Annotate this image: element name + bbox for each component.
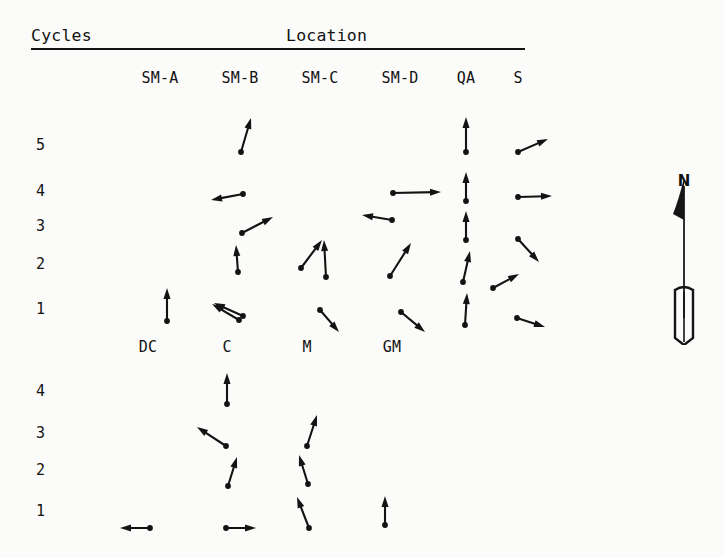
- vector-arrow-head: [463, 117, 470, 128]
- vector-arrow: [398, 309, 425, 332]
- vector-arrow: [297, 497, 312, 531]
- vector-arrow: [390, 189, 441, 196]
- vector-arrow-head: [120, 525, 131, 532]
- vector-arrow: [233, 245, 241, 275]
- vector-arrow-head: [299, 455, 306, 467]
- vector-tail-dot: [235, 269, 241, 275]
- vector-arrow: [463, 117, 470, 155]
- vector-arrow-head: [463, 211, 470, 222]
- vector-field: [0, 0, 724, 558]
- vector-arrow-head: [362, 213, 373, 220]
- north-arrow-icon: [660, 170, 708, 345]
- vector-arrow: [304, 415, 317, 449]
- vector-tail-dot: [514, 315, 520, 321]
- vector-arrow: [299, 455, 311, 487]
- vector-arrow-head: [321, 240, 328, 251]
- vector-tail-dot: [224, 401, 230, 407]
- vector-arrow: [197, 427, 229, 449]
- vector-arrow-head: [463, 172, 470, 183]
- vector-tail-dot: [223, 525, 229, 531]
- vector-arrow: [225, 457, 237, 489]
- vector-arrow: [211, 191, 246, 201]
- vector-arrow: [239, 217, 273, 236]
- vector-arrow-head: [164, 288, 171, 299]
- vector-arrow: [462, 293, 470, 328]
- vector-tail-dot: [240, 313, 246, 319]
- vector-arrow-head: [262, 217, 273, 225]
- vector-arrow: [298, 240, 322, 271]
- vector-tail-dot: [398, 309, 404, 315]
- vector-tail-dot: [225, 483, 231, 489]
- vector-tail-dot: [298, 265, 304, 271]
- figure-canvas: Cycles Location SM-A SM-B SM-C SM-D QA S…: [0, 0, 724, 558]
- vector-tail-dot: [317, 307, 323, 313]
- vector-tail-dot: [306, 525, 312, 531]
- vector-tail-dot: [515, 194, 521, 200]
- vector-tail-dot: [389, 217, 395, 223]
- vector-arrow-head: [224, 373, 231, 384]
- vector-arrow-head: [245, 118, 252, 130]
- vector-tail-dot: [239, 230, 245, 236]
- vector-tail-dot: [223, 443, 229, 449]
- vector-tail-dot: [515, 236, 521, 242]
- vector-tail-dot: [147, 525, 153, 531]
- vector-arrow: [238, 118, 251, 155]
- vector-arrow-head: [508, 274, 519, 282]
- vector-tail-dot: [490, 285, 496, 291]
- vector-tail-dot: [387, 273, 393, 279]
- vector-tail-dot: [515, 149, 521, 155]
- vector-tail-dot: [463, 149, 469, 155]
- vector-tail-dot: [323, 274, 329, 280]
- vector-arrow-head: [310, 415, 317, 427]
- vector-arrow: [515, 193, 552, 200]
- vector-arrow: [317, 307, 339, 332]
- vector-arrow: [321, 240, 329, 280]
- vector-arrow-head: [541, 193, 552, 200]
- vector-arrow: [224, 373, 231, 407]
- vector-arrow: [120, 525, 153, 532]
- vector-tail-dot: [240, 191, 246, 197]
- vector-arrow: [490, 274, 519, 291]
- vector-arrow: [515, 139, 548, 155]
- vector-arrow: [223, 525, 256, 532]
- vector-arrow-head: [245, 525, 256, 532]
- vector-arrow: [463, 211, 470, 243]
- vector-arrow-head: [537, 139, 548, 147]
- vector-tail-dot: [463, 237, 469, 243]
- vector-arrow-head: [233, 245, 240, 256]
- vector-arrow-head: [211, 195, 222, 202]
- vector-arrow: [515, 236, 539, 262]
- vector-tail-dot: [305, 481, 311, 487]
- vector-arrow-head: [464, 251, 471, 263]
- vector-arrow-head: [430, 189, 441, 196]
- vector-arrow: [362, 213, 395, 223]
- vector-arrow-head: [197, 427, 208, 436]
- vector-tail-dot: [390, 190, 396, 196]
- vector-tail-dot: [238, 149, 244, 155]
- vector-arrow: [463, 172, 470, 204]
- vector-arrow: [387, 243, 411, 279]
- vector-tail-dot: [460, 279, 466, 285]
- vector-tail-dot: [463, 198, 469, 204]
- vector-arrow: [514, 315, 545, 327]
- vector-tail-dot: [304, 443, 310, 449]
- vector-arrow: [382, 496, 389, 528]
- vector-tail-dot: [164, 318, 170, 324]
- vector-arrow-head: [463, 293, 470, 304]
- vector-arrow-head: [402, 243, 411, 254]
- vector-arrow-head: [382, 496, 389, 507]
- vector-arrow-head: [230, 457, 237, 469]
- vector-arrow: [460, 251, 471, 285]
- vector-arrow: [164, 288, 171, 324]
- vector-arrow-head: [297, 497, 304, 509]
- vector-arrow-head: [533, 320, 545, 327]
- vector-tail-dot: [382, 522, 388, 528]
- vector-tail-dot: [462, 322, 468, 328]
